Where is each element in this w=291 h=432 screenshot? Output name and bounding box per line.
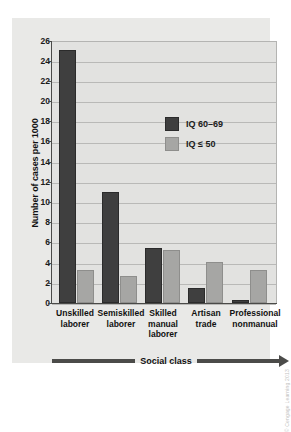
y-tick-label: 24 — [26, 57, 50, 66]
y-tick-label: 0 — [26, 299, 50, 308]
bar-artisan-iq50 — [206, 262, 223, 303]
x-category-line: laborer — [61, 319, 90, 329]
y-tick-label: 2 — [26, 279, 50, 288]
bar-professional-iq60-69 — [232, 300, 249, 303]
x-category-line: Semiskilled — [98, 308, 145, 318]
gridline — [52, 62, 276, 63]
arrow-left-icon — [52, 359, 135, 363]
y-tick-label: 4 — [26, 259, 50, 268]
credit-text: © Cengage Learning 2013 — [284, 369, 290, 432]
x-category-line: nonmanual — [232, 319, 277, 329]
x-axis-categories: Unskilled laborer Semiskilled laborer Sk… — [52, 308, 277, 356]
gridline — [52, 102, 276, 103]
gridline — [52, 163, 276, 164]
legend: IQ 60–69 IQ ≤ 50 — [165, 114, 261, 154]
plot-area — [52, 41, 277, 303]
bar-unskilled-iq60-69 — [59, 50, 76, 303]
bar-professional-iq50 — [250, 270, 267, 303]
gridline — [52, 183, 276, 184]
x-category-line: trade — [196, 319, 217, 329]
bar-semiskilled-iq50 — [120, 276, 137, 303]
legend-label: IQ ≤ 50 — [186, 139, 215, 149]
gridline — [52, 243, 276, 244]
bar-skilled-manual-iq60-69 — [145, 248, 162, 303]
x-axis-title: Social class — [135, 356, 197, 366]
bar-skilled-manual-iq50 — [163, 250, 180, 303]
y-tick-label: 26 — [26, 37, 50, 46]
x-axis-title-row: Social class — [52, 354, 280, 368]
bar-artisan-iq60-69 — [188, 288, 205, 303]
legend-label: IQ 60–69 — [186, 119, 223, 129]
bar-semiskilled-iq60-69 — [102, 192, 119, 303]
legend-item-iq50: IQ ≤ 50 — [165, 134, 261, 154]
x-category-line: laborer — [107, 319, 136, 329]
x-category-skilled-manual: Skilled manual laborer — [140, 308, 186, 340]
x-category-line: laborer — [149, 329, 178, 339]
gridline — [52, 82, 276, 83]
plot-inner — [52, 42, 276, 303]
gridline — [52, 203, 276, 204]
y-tick-label: 22 — [26, 77, 50, 86]
y-axis-title: Number of cases per 1000 — [30, 103, 40, 243]
arrow-right-icon — [197, 359, 280, 363]
gridline — [52, 304, 276, 305]
x-category-line: Unskilled — [56, 308, 94, 318]
x-category-line: Skilled — [149, 308, 176, 318]
x-category-line: Artisan — [191, 308, 220, 318]
x-category-line: Professional — [229, 308, 280, 318]
x-category-professional: Professional nonmanual — [224, 308, 286, 329]
legend-swatch-icon — [165, 117, 179, 131]
legend-item-iq60-69: IQ 60–69 — [165, 114, 261, 134]
gridline — [52, 223, 276, 224]
legend-swatch-icon — [165, 137, 179, 151]
bar-unskilled-iq50 — [77, 270, 94, 303]
x-category-artisan: Artisan trade — [185, 308, 227, 329]
x-category-line: manual — [148, 319, 178, 329]
chart-card: 26 24 22 20 18 16 14 12 10 8 6 4 2 0 — [12, 18, 270, 363]
